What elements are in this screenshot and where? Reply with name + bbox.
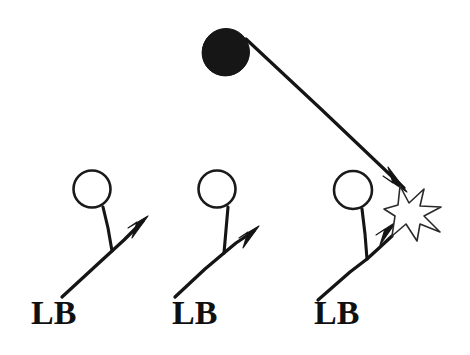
ball-carrier-edge-icon (202, 30, 248, 76)
route-stem-lb1 (103, 207, 112, 251)
route-shaft-lb3 (318, 236, 392, 300)
player-circle-lb1-icon (74, 171, 111, 208)
route-arrowhead-lb2-icon (239, 226, 259, 248)
collision-burst-icon (384, 186, 441, 241)
route-stem-lb3 (362, 209, 367, 259)
player-label-lb2: LB (172, 296, 217, 330)
player-circle-lb2-icon (199, 171, 236, 208)
play-diagram: LB LB LB (0, 0, 470, 355)
player-circle-lb3-icon (334, 171, 372, 209)
player-label-lb1: LB (31, 296, 76, 330)
route-shaft-lb2 (175, 231, 254, 297)
route-shaft-lb1 (62, 221, 143, 297)
ball-path-line (246, 39, 404, 188)
route-stem-lb2 (224, 207, 228, 253)
player-label-lb3: LB (314, 296, 359, 330)
